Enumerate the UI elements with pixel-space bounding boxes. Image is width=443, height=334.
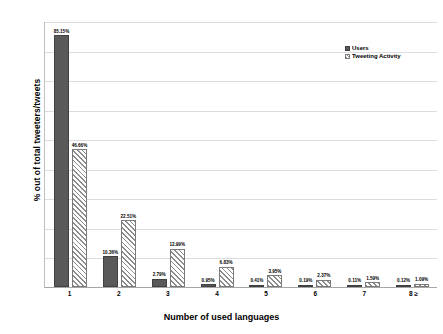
bar-tweeting-activity[interactable]	[121, 220, 136, 287]
bar-group: 0.41%3.95%	[242, 22, 291, 287]
bar-tweeting-activity[interactable]	[414, 284, 429, 287]
bar-tweeting-activity[interactable]	[170, 249, 185, 287]
bar-wrap: 85.15%	[54, 22, 69, 287]
x-axis-tick-8: 8 ≥	[389, 290, 438, 297]
bar-users[interactable]	[298, 285, 313, 287]
bar-value-label: 2.37%	[317, 274, 330, 279]
bar-users[interactable]	[54, 35, 69, 287]
bar-value-label: 0.12%	[397, 279, 410, 284]
bar-users[interactable]	[347, 285, 362, 287]
bar-value-label: 0.41%	[250, 279, 263, 284]
bar-value-label: 1.09%	[415, 278, 428, 283]
bar-tweeting-activity[interactable]	[316, 280, 331, 287]
x-axis-tick-6: 6	[291, 290, 340, 297]
legend-swatch-icon	[345, 54, 350, 59]
bar-groups: 85.15%46.66%10.36%22.51%2.79%12.99%0.95%…	[46, 22, 437, 287]
bar-chart: % out of total tweeters/tweets 85.15%46.…	[0, 0, 443, 334]
bar-value-label: 1.59%	[366, 277, 379, 282]
bar-value-label: 2.79%	[153, 273, 166, 278]
bar-value-label: 22.51%	[121, 215, 137, 220]
bar-value-label: 6.83%	[220, 261, 233, 266]
bar-group: 2.79%12.99%	[144, 22, 193, 287]
bar-wrap: 0.11%	[347, 22, 362, 287]
bar-wrap: 2.37%	[316, 22, 331, 287]
bar-wrap: 0.95%	[201, 22, 216, 287]
bar-users[interactable]	[103, 256, 118, 287]
bar-tweeting-activity[interactable]	[267, 275, 282, 287]
bar-wrap: 1.59%	[365, 22, 380, 287]
bar-value-label: 0.11%	[348, 279, 361, 284]
bar-wrap: 6.83%	[219, 22, 234, 287]
bar-users[interactable]	[249, 285, 264, 287]
bar-group: 0.95%6.83%	[193, 22, 242, 287]
x-axis-tick-2: 2	[94, 290, 143, 297]
x-axis-tick-4: 4	[192, 290, 241, 297]
bar-group: 0.19%2.37%	[290, 22, 339, 287]
bar-value-label: 12.99%	[169, 243, 185, 248]
bar-group: 85.15%46.66%	[46, 22, 95, 287]
bar-value-label: 10.36%	[103, 251, 119, 256]
bar-wrap: 0.19%	[298, 22, 313, 287]
bar-value-label: 0.19%	[299, 279, 312, 284]
bar-users[interactable]	[152, 279, 167, 287]
y-axis-title: % out of total tweeters/tweets	[32, 40, 42, 240]
bar-wrap: 22.51%	[121, 22, 136, 287]
bar-value-label: 0.95%	[202, 279, 215, 284]
legend-item[interactable]: Tweeting Activity	[345, 53, 401, 59]
x-axis-title: Number of used languages	[0, 312, 443, 322]
bar-wrap: 12.99%	[170, 22, 185, 287]
bar-wrap: 2.79%	[152, 22, 167, 287]
bar-group: 10.36%22.51%	[95, 22, 144, 287]
bar-tweeting-activity[interactable]	[72, 149, 87, 287]
x-axis-tick-7: 7	[340, 290, 389, 297]
legend-label: Users	[352, 45, 369, 51]
x-axis-tick-5: 5	[242, 290, 291, 297]
bar-value-label: 46.66%	[72, 144, 88, 149]
bar-wrap: 10.36%	[103, 22, 118, 287]
chart-legend: UsersTweeting Activity	[345, 45, 401, 59]
bar-wrap: 1.09%	[414, 22, 429, 287]
bar-tweeting-activity[interactable]	[365, 282, 380, 287]
bar-wrap: 0.41%	[249, 22, 264, 287]
legend-item[interactable]: Users	[345, 45, 401, 51]
bar-group: 0.12%1.09%	[388, 22, 437, 287]
bar-wrap: 46.66%	[72, 22, 87, 287]
bar-users[interactable]	[396, 285, 411, 287]
bar-value-label: 85.15%	[54, 30, 70, 35]
x-axis-tick-3: 3	[143, 290, 192, 297]
bar-value-label: 3.95%	[268, 270, 281, 275]
x-axis-tick-1: 1	[45, 290, 94, 297]
plot-area: 85.15%46.66%10.36%22.51%2.79%12.99%0.95%…	[44, 22, 437, 288]
bar-wrap: 0.12%	[396, 22, 411, 287]
bar-wrap: 3.95%	[267, 22, 282, 287]
bar-group: 0.11%1.59%	[339, 22, 388, 287]
x-axis-tick-labels: 12345678 ≥	[45, 290, 438, 297]
bar-users[interactable]	[201, 284, 216, 287]
legend-swatch-icon	[345, 46, 350, 51]
bar-tweeting-activity[interactable]	[219, 267, 234, 287]
legend-label: Tweeting Activity	[352, 53, 401, 59]
